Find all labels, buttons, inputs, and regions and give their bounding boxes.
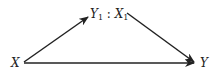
node-x: X (11, 57, 20, 69)
node-x-label: X (11, 56, 20, 70)
edge-x-to-mid (24, 17, 88, 62)
node-mid-right-var: X (115, 7, 124, 21)
node-y: Y (200, 57, 208, 69)
edge-mid-to-y (127, 13, 194, 62)
node-mid-separator: : (103, 7, 115, 21)
node-mid-right-sub: 1 (123, 13, 128, 22)
node-y-label: Y (200, 56, 208, 70)
node-mid-left-var: Y (90, 7, 98, 21)
node-mid: Y1 : X1 (90, 8, 128, 22)
